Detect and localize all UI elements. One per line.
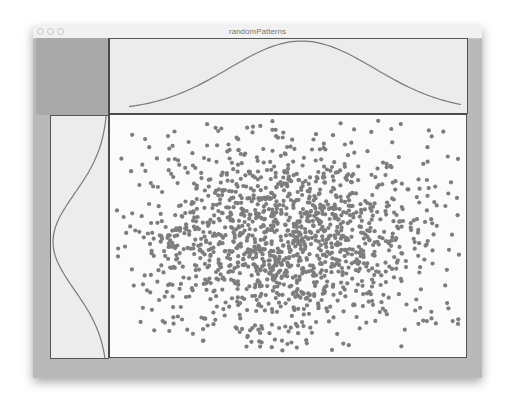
y-axis-line <box>108 38 110 358</box>
x-axis-line <box>108 113 467 115</box>
scatter-plot <box>110 115 467 358</box>
scatter-points <box>110 115 466 357</box>
y-density-panel <box>50 115 109 359</box>
window-title: randomPatterns <box>33 27 482 36</box>
x-density-panel <box>108 38 468 114</box>
x-density-curve <box>109 39 467 114</box>
corner-block <box>36 38 108 115</box>
app-window: randomPatterns <box>33 26 482 378</box>
y-density-curve <box>51 116 109 358</box>
